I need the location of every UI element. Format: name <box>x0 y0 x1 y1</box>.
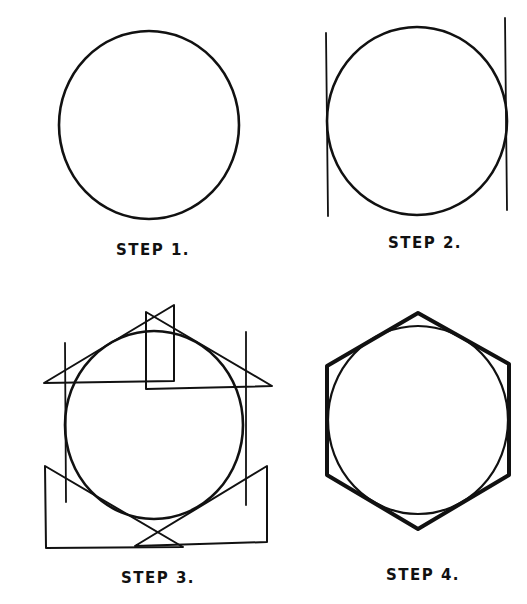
step-2-right-tangent-line <box>505 18 507 210</box>
step-4-hexagon <box>327 313 509 529</box>
step-1-circle <box>59 31 239 219</box>
hexagon-construction-diagram <box>0 0 527 604</box>
step-3-triangle-bottom-right <box>135 466 267 546</box>
step-3-figure <box>44 305 272 548</box>
step-3-circle <box>65 331 243 519</box>
step-2-label: STEP 2. <box>388 234 462 252</box>
step-1-label: STEP 1. <box>116 241 190 259</box>
step-3-label: STEP 3. <box>121 569 195 587</box>
step-1-figure <box>59 31 239 219</box>
step-2-figure <box>326 18 507 216</box>
step-4-circle <box>328 326 508 514</box>
step-2-left-tangent-line <box>326 33 328 216</box>
step-2-circle <box>327 27 507 215</box>
step-3-triangle-bottom-left <box>45 466 183 548</box>
step-4-label: STEP 4. <box>386 566 460 584</box>
step-4-figure <box>327 313 509 529</box>
